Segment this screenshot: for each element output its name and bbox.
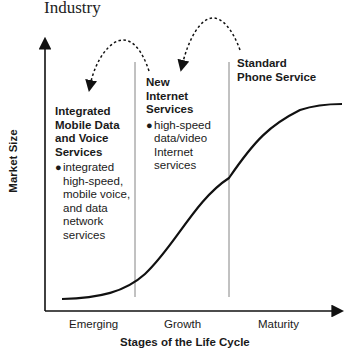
- bullet-line: services: [63, 229, 130, 243]
- life-cycle-diagram: [0, 0, 347, 350]
- bullet-line: and data: [63, 202, 130, 216]
- panel-standard-phone: Standard Phone Service: [237, 57, 347, 84]
- panel-integrated-mobile: Integrated Mobile Data and Voice Service…: [55, 105, 135, 242]
- panel-heading: Standard Phone Service: [237, 57, 347, 84]
- y-axis-label: Market Size: [7, 121, 19, 201]
- stage-label-maturity: Maturity: [258, 318, 299, 330]
- heading-line: New: [146, 76, 228, 90]
- bullet-line: network: [63, 215, 130, 229]
- transition-arrow-internet-to-mobile: [90, 40, 149, 86]
- heading-line: Integrated: [55, 105, 135, 119]
- panel-bullet: ● integrated high-speed, mobile voice, a…: [55, 161, 135, 242]
- bullet-icon: ●: [55, 161, 63, 242]
- heading-line: Mobile Data: [55, 119, 135, 133]
- bullet-line: high-speed: [154, 119, 211, 133]
- x-axis-label: Stages of the Life Cycle: [120, 336, 250, 348]
- heading-line: Standard: [237, 57, 347, 71]
- stage-label-growth: Growth: [164, 318, 201, 330]
- panel-new-internet: New Internet Services ● high-speed data/…: [146, 76, 228, 173]
- heading-line: Phone Service: [237, 71, 347, 85]
- panel-heading: New Internet Services: [146, 76, 228, 117]
- heading-line: and Voice: [55, 132, 135, 146]
- heading-line: Services: [55, 146, 135, 160]
- bullet-line: high-speed,: [63, 175, 130, 189]
- bullet-icon: ●: [146, 119, 154, 173]
- bullet-line: mobile voice,: [63, 188, 130, 202]
- transition-arrow-phone-to-internet: [182, 18, 240, 66]
- bullet-line: integrated: [63, 161, 130, 175]
- heading-line: Internet: [146, 90, 228, 104]
- stage-label-emerging: Emerging: [69, 318, 118, 330]
- heading-line: Services: [146, 103, 228, 117]
- panel-bullet: ● high-speed data/video Internet service…: [146, 119, 228, 173]
- bullet-line: Internet: [154, 146, 211, 160]
- bullet-line: data/video: [154, 132, 211, 146]
- bullet-line: services: [154, 159, 211, 173]
- panel-heading: Integrated Mobile Data and Voice Service…: [55, 105, 135, 159]
